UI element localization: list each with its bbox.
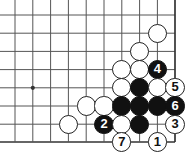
stone-black-c7r5[interactable]	[130, 96, 149, 115]
stone-move-number: 1	[149, 133, 166, 150]
stone-black-6-c9r5[interactable]: 6	[165, 96, 184, 115]
go-board-diagram: 4562371	[0, 0, 191, 156]
stone-move-number: 4	[149, 61, 166, 78]
star-point-0	[31, 86, 35, 90]
stone-white-1-c8r7[interactable]: 1	[148, 132, 167, 151]
stone-white-3-c9r6[interactable]: 3	[165, 115, 184, 134]
stone-move-number: 6	[166, 97, 183, 114]
stone-move-number: 2	[95, 116, 112, 133]
stone-white-c6r6[interactable]	[112, 115, 131, 134]
stone-white-c7r2[interactable]	[130, 42, 149, 61]
stone-black-c7r6[interactable]	[130, 115, 149, 134]
stone-move-number: 3	[166, 116, 183, 133]
stone-black-c6r5[interactable]	[112, 96, 131, 115]
stone-white-c4r5[interactable]	[77, 96, 96, 115]
stone-white-c5r5[interactable]	[94, 96, 113, 115]
stone-white-7-c6r7[interactable]: 7	[112, 132, 131, 151]
stone-move-number: 5	[166, 79, 183, 96]
stone-black-c8r5[interactable]	[148, 96, 167, 115]
stone-white-c8r1[interactable]	[148, 24, 167, 43]
stone-black-4-c8r3[interactable]: 4	[148, 60, 167, 79]
stone-move-number: 7	[113, 133, 130, 150]
stone-white-5-c9r4[interactable]: 5	[165, 78, 184, 97]
stone-white-c3r6[interactable]	[59, 115, 78, 134]
stone-black-2-c5r6[interactable]: 2	[94, 115, 113, 134]
